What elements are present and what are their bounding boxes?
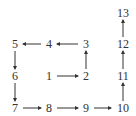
node-11: 11 (117, 69, 129, 83)
node-8: 8 (46, 101, 52, 115)
node-2: 2 (83, 69, 89, 83)
spiral-sequence-diagram: 12345678910111213 (0, 0, 136, 116)
node-4: 4 (46, 37, 52, 51)
node-6: 6 (12, 69, 18, 83)
node-7: 7 (12, 101, 18, 115)
node-1: 1 (46, 69, 52, 83)
node-3: 3 (83, 37, 89, 51)
node-10: 10 (117, 101, 129, 115)
edges-group (15, 20, 123, 108)
node-9: 9 (83, 101, 89, 115)
node-5: 5 (12, 37, 18, 51)
node-13: 13 (117, 6, 129, 20)
nodes-group: 12345678910111213 (12, 6, 129, 115)
node-12: 12 (117, 37, 129, 51)
